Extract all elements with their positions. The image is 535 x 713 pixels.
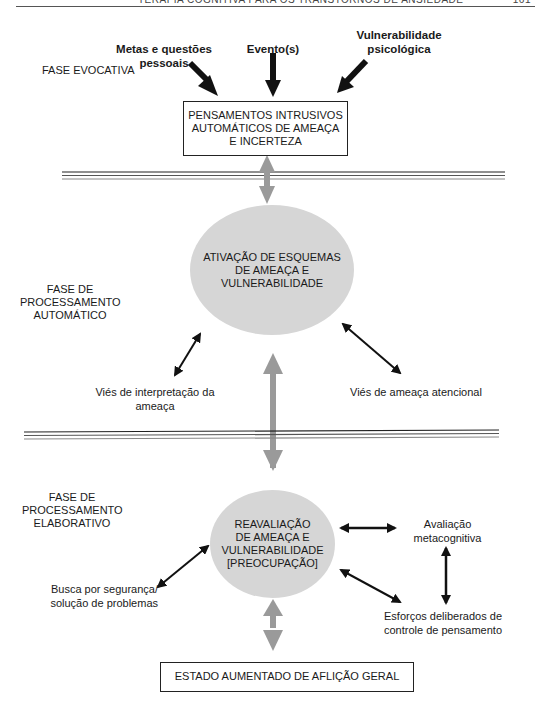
label-safety-seeking-line2: solução de problemas — [38, 596, 158, 610]
label-thought-control-line1: Esforços deliberados de — [384, 609, 534, 623]
phase-automatic-line3: AUTOMÁTICO — [20, 309, 120, 322]
phase-automatic-line1: FASE DE — [20, 283, 120, 296]
phase-automatic-line2: PROCESSAMENTO — [20, 296, 120, 309]
node-distress: ESTADO AUMENTADO DE AFLIÇÃO GERAL — [160, 662, 414, 692]
input-events: Evento(s) — [238, 42, 308, 56]
phase-evocative: FASE EVOCATIVA — [42, 64, 135, 77]
node-reappraisal-line4: [PREOCUPAÇÃO] — [221, 557, 323, 570]
input-vulnerability-line2: psicológica — [344, 42, 454, 56]
node-intrusive-thoughts-line2: AUTOMÁTICOS DE AMEAÇA — [184, 122, 347, 135]
gray-arrow-reappraisal-distress — [263, 599, 283, 651]
input-goals-line1: Metas e questões — [104, 42, 224, 56]
node-schema-activation-line3: VULNERABILIDADE — [203, 277, 341, 290]
label-thought-control: Esforços deliberados de controle de pens… — [384, 609, 534, 637]
phase-separator-top — [62, 172, 505, 179]
node-intrusive-thoughts-line1: PENSAMENTOS INTRUSIVOS — [184, 109, 347, 122]
node-reappraisal: REAVALIAÇÃO DE AMEAÇA E VULNERABILIDADE … — [210, 490, 335, 598]
input-vulnerability-line1: Vulnerabilidade — [344, 28, 454, 42]
node-intrusive-thoughts-line3: E INCERTEZA — [184, 135, 347, 148]
phase-elaborative-line2: PROCESSAMENTO — [22, 504, 122, 517]
phase-elaborative: FASE DE PROCESSAMENTO ELABORATIVO — [22, 491, 122, 530]
node-schema-activation-line1: ATIVAÇÃO DE ESQUEMAS — [203, 251, 341, 264]
input-arrow-vulnerability — [337, 61, 366, 93]
node-reappraisal-line2: DE AMEAÇA E — [221, 531, 323, 544]
label-thought-control-line2: controle de pensamento — [384, 623, 534, 637]
phase-elaborative-line3: ELABORATIVO — [22, 517, 122, 530]
label-metacognitive: Avaliação metacognitiva — [400, 517, 495, 545]
phase-elaborative-line1: FASE DE — [22, 491, 122, 504]
node-schema-activation-line2: DE AMEAÇA E — [203, 264, 341, 277]
label-attentional-bias: Viés de ameaça atencional — [350, 385, 500, 399]
phase-automatic: FASE DE PROCESSAMENTO AUTOMÁTICO — [20, 283, 120, 322]
label-safety-seeking-line1: Busca por segurança/ — [38, 582, 158, 596]
arrow-interpretation-bias — [175, 334, 200, 375]
arrow-safety-seeking — [158, 546, 208, 587]
phase-separator-bottom — [24, 430, 499, 439]
arrow-attentional-bias — [343, 324, 400, 373]
label-metacognitive-line2: metacognitiva — [400, 531, 495, 545]
label-interpretation-bias: Viés de interpretação da ameaça — [80, 385, 230, 413]
node-reappraisal-line1: REAVALIAÇÃO — [221, 518, 323, 531]
input-vulnerability: Vulnerabilidade psicológica — [344, 28, 454, 56]
label-safety-seeking: Busca por segurança/ solução de problema… — [38, 582, 158, 610]
input-arrow-events — [265, 53, 281, 97]
node-intrusive-thoughts: PENSAMENTOS INTRUSIVOS AUTOMÁTICOS DE AM… — [183, 101, 348, 156]
label-metacognitive-line1: Avaliação — [400, 517, 495, 531]
arrow-thought-control — [341, 570, 400, 602]
gray-arrow-schema-reappraisal — [263, 353, 283, 471]
node-schema-activation: ATIVAÇÃO DE ESQUEMAS DE AMEAÇA E VULNERA… — [190, 205, 354, 335]
label-interpretation-bias-line1: Viés de interpretação da — [80, 385, 230, 399]
label-interpretation-bias-line2: ameaça — [80, 399, 230, 413]
node-reappraisal-line3: VULNERABILIDADE — [221, 544, 323, 557]
